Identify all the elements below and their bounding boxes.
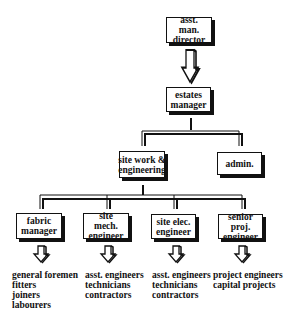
list-item: technicians	[152, 280, 211, 290]
node-site-work-engineering: site work & engineering	[119, 151, 165, 178]
list-item: joiners	[12, 290, 78, 300]
bracket-estates	[142, 118, 242, 146]
list-item: asst. engineers	[85, 270, 144, 280]
list-item: technicians	[85, 280, 144, 290]
arrow-down-icon	[34, 246, 49, 263]
list-fabric: general foremen fitters joiners labourer…	[12, 270, 78, 310]
list-item: contractors	[152, 290, 211, 300]
list-item: contractors	[85, 290, 144, 300]
arrow-down-icon	[182, 50, 199, 84]
list-item: general foremen	[12, 270, 78, 280]
arrow-down-icon	[169, 246, 184, 263]
node-site-mech-engineer: site mech. engineer	[83, 213, 129, 239]
list-item: labourers	[12, 300, 78, 310]
list-senior: project engineers capital projects	[213, 270, 283, 290]
node-site-elec-engineer: site elec. engineer	[151, 214, 196, 239]
list-item: capital projects	[213, 280, 283, 290]
node-fabric-manager: fabric manager	[16, 213, 62, 239]
arrow-down-icon	[101, 246, 116, 263]
node-admin: admin.	[217, 152, 262, 175]
list-mech: asst. engineers technicians contractors	[85, 270, 144, 300]
list-elec: asst. engineers technicians contractors	[152, 270, 211, 300]
list-item: asst. engineers	[152, 270, 211, 280]
node-senior-proj-engineer: senior proj. engineer	[218, 214, 263, 239]
list-item: fitters	[12, 280, 78, 290]
bracket-sitework	[40, 185, 245, 209]
list-item: project engineers	[213, 270, 283, 280]
node-asst-man-director: asst. man. director	[166, 17, 212, 43]
node-estates-manager: estates manager	[166, 87, 211, 112]
arrow-down-icon	[235, 246, 250, 263]
